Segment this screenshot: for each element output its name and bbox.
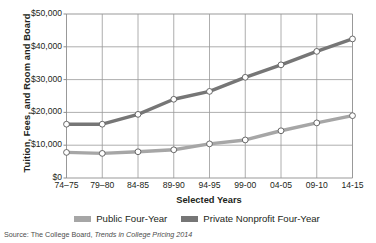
data-point-marker xyxy=(171,96,177,102)
data-point-marker xyxy=(171,147,177,153)
data-point-marker xyxy=(278,128,284,134)
x-tick-label: 14-15 xyxy=(330,180,376,190)
x-axis-tick-labels: 74–7579–8084-8589-9094-9599-0004-0509-10… xyxy=(0,180,376,196)
source-prefix: Source: The College Board, xyxy=(4,230,95,239)
legend-swatch-icon xyxy=(181,216,198,222)
data-point-marker xyxy=(99,151,105,157)
data-point-marker xyxy=(207,89,213,95)
data-point-marker xyxy=(242,137,248,143)
source-note: Source: The College Board, Trends in Col… xyxy=(4,230,192,239)
data-point-marker xyxy=(99,121,105,127)
legend-swatch-icon xyxy=(74,216,91,222)
plot-area xyxy=(0,0,376,196)
x-axis-title: Selected Years xyxy=(0,195,376,205)
data-point-marker xyxy=(64,150,70,156)
data-point-marker xyxy=(314,120,320,126)
legend-item-private[interactable]: Private Nonprofit Four-Year xyxy=(181,213,319,224)
data-point-marker xyxy=(278,62,284,68)
chart-container: Tuition, Fees, and Room and Board $0$10,… xyxy=(0,0,376,243)
data-point-marker xyxy=(64,121,70,127)
legend-label: Public Four-Year xyxy=(96,213,167,224)
legend-item-public[interactable]: Public Four-Year xyxy=(74,213,167,224)
legend-label: Private Nonprofit Four-Year xyxy=(203,213,319,224)
data-point-marker xyxy=(135,111,141,117)
data-point-marker xyxy=(350,36,356,42)
data-point-marker xyxy=(207,141,213,147)
source-italic-title: Trends in College Pricing 2014 xyxy=(95,230,193,239)
data-point-marker xyxy=(135,149,141,155)
chart-legend: Public Four-YearPrivate Nonprofit Four-Y… xyxy=(0,213,376,224)
data-point-marker xyxy=(350,113,356,119)
data-point-marker xyxy=(314,48,320,54)
data-point-marker xyxy=(242,74,248,80)
